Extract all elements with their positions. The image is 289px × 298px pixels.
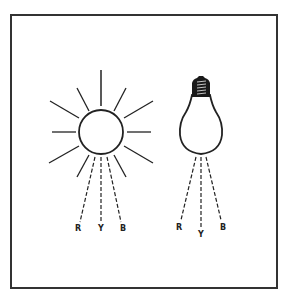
bulb-label-r: R — [176, 223, 182, 232]
sun-label-r: R — [75, 224, 81, 233]
light-bulb-icon — [180, 76, 222, 154]
bulb-label-b: B — [220, 223, 226, 232]
sun-label-b: B — [120, 224, 126, 233]
sun-rgb-rays — [80, 157, 121, 222]
bulb-label-y: Y — [198, 230, 204, 239]
diagram-canvas — [0, 0, 289, 298]
sun-label-y: Y — [98, 224, 104, 233]
bulb-rgb-rays — [181, 157, 221, 227]
